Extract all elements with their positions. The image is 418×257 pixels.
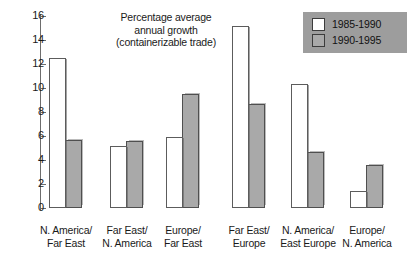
chart-title-line: (containerizable trade) xyxy=(96,36,236,49)
bar xyxy=(291,84,308,208)
bar xyxy=(182,94,199,208)
y-axis-tick-label: 2 xyxy=(14,178,44,189)
y-axis-tick-label: 16 xyxy=(14,10,44,21)
bar xyxy=(65,140,82,208)
chart-title: Percentage averageannual growth(containe… xyxy=(96,11,236,49)
x-axis-label-line: Europe/ xyxy=(324,224,410,237)
y-axis-tick-label: 0 xyxy=(14,202,44,213)
x-axis-label: Europe/N. America xyxy=(324,224,410,249)
legend-swatch-icon xyxy=(312,34,325,47)
bar xyxy=(366,165,383,208)
legend-label: 1990-1995 xyxy=(332,34,381,47)
bar-group xyxy=(232,16,266,208)
chart-title-line: Percentage average xyxy=(96,11,236,24)
bar xyxy=(166,137,183,208)
legend-swatch-icon xyxy=(312,18,325,31)
chart-legend: 1985-1990 1990-1995 xyxy=(303,12,407,53)
bar xyxy=(248,104,265,208)
x-axis-label-line: N. America xyxy=(324,237,410,250)
bar xyxy=(126,141,143,208)
y-axis-tick-label: 4 xyxy=(14,154,44,165)
y-axis-tick-label: 8 xyxy=(14,106,44,117)
plot-area: 0246810121416 N. America/Far EastFar Eas… xyxy=(0,0,418,257)
bar-chart: 0246810121416 N. America/Far EastFar Eas… xyxy=(0,0,418,257)
bar xyxy=(307,152,324,208)
bar xyxy=(110,146,127,208)
legend-label: 1985-1990 xyxy=(332,18,381,31)
y-axis-tick-label: 10 xyxy=(14,82,44,93)
y-axis-tick-label: 6 xyxy=(14,130,44,141)
bar-group xyxy=(49,16,83,208)
bar xyxy=(232,26,249,208)
bar xyxy=(49,58,66,208)
y-axis-tick-label: 12 xyxy=(14,58,44,69)
chart-title-line: annual growth xyxy=(96,24,236,37)
bar xyxy=(350,191,367,208)
y-axis-tick-label: 14 xyxy=(14,34,44,45)
